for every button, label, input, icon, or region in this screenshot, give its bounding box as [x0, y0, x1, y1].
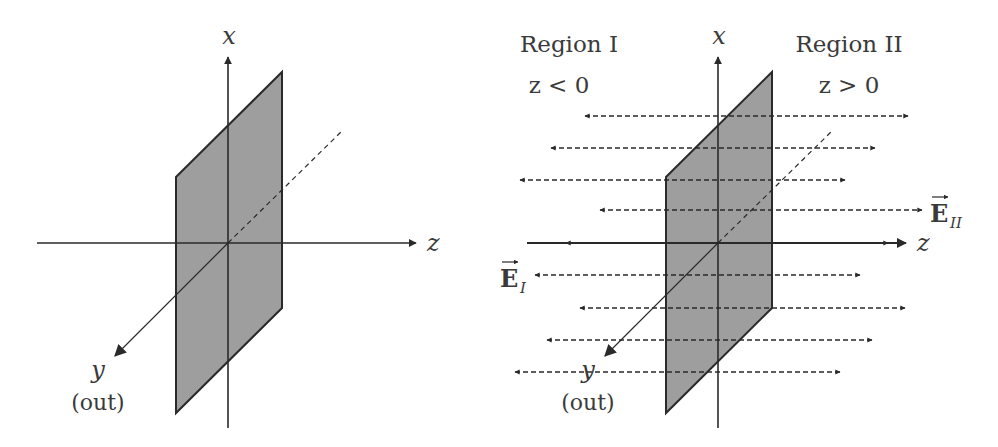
- field-label-region-1: E I: [500, 262, 527, 297]
- region-1-condition: z < 0: [529, 72, 590, 98]
- z-axis-label: z: [916, 229, 930, 257]
- field-label-region-2: E II: [930, 197, 963, 232]
- region-1-label: Region I: [520, 31, 618, 57]
- x-axis-label: x: [712, 22, 726, 50]
- region-2-condition: z > 0: [819, 72, 880, 98]
- y-axis-note: (out): [71, 390, 124, 415]
- y-axis-label: y: [580, 356, 595, 384]
- z-axis-label: z: [426, 229, 440, 257]
- field-symbol: E: [930, 199, 948, 228]
- region-2-label: Region II: [795, 31, 902, 57]
- right-diagram: x z y (out) Region I z < 0 Region II z >…: [500, 22, 963, 428]
- diagram-canvas: x z y (out) x z y (out): [0, 0, 998, 447]
- y-axis-note: (out): [561, 390, 614, 415]
- y-axis-label: y: [90, 356, 105, 384]
- field-subscript: II: [949, 214, 963, 232]
- field-subscript: I: [519, 279, 527, 297]
- field-symbol: E: [500, 264, 518, 293]
- left-diagram: x z y (out): [37, 22, 440, 428]
- x-axis-label: x: [222, 22, 236, 50]
